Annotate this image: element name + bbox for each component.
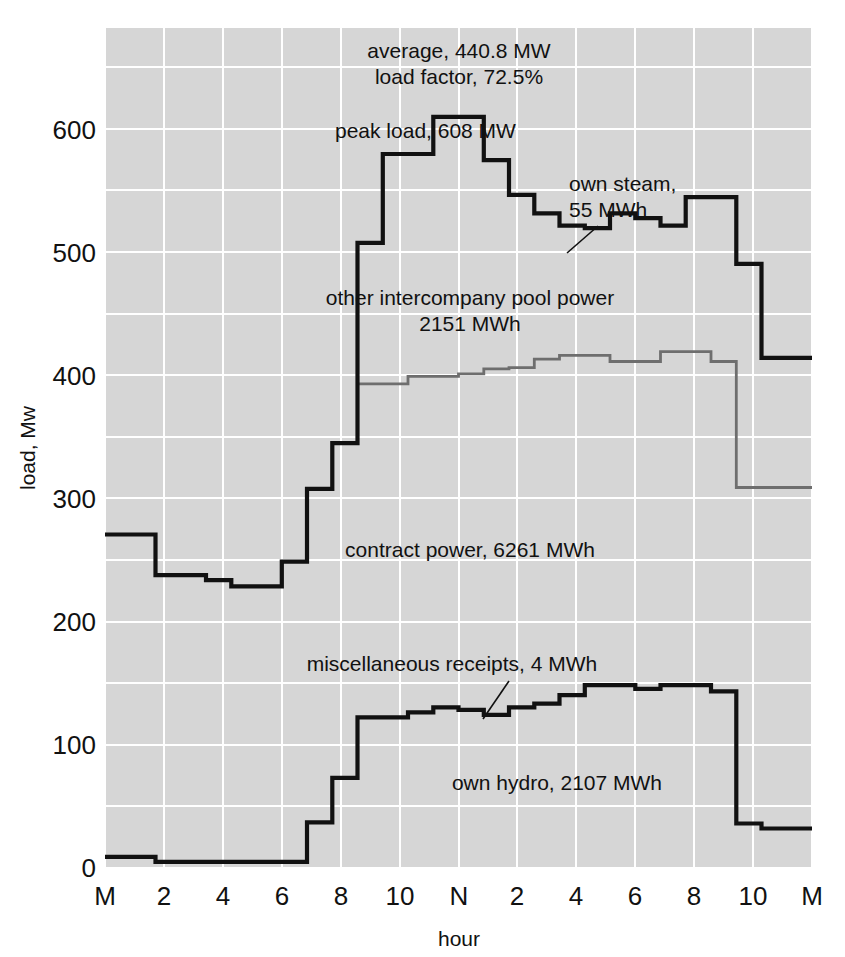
annotation-pool-line2: 2151 MWh xyxy=(419,312,521,335)
y-tick-400: 400 xyxy=(53,361,96,391)
y-axis-tick-labels: 0 100 200 300 400 500 600 xyxy=(53,115,96,883)
annotation-pool-line1: other intercompany pool power xyxy=(326,286,614,309)
x-axis-title: hour xyxy=(438,927,480,950)
x-tick-22: 10 xyxy=(739,881,768,911)
y-tick-100: 100 xyxy=(53,730,96,760)
y-tick-0: 0 xyxy=(82,853,96,883)
y-tick-500: 500 xyxy=(53,238,96,268)
x-tick-2: 2 xyxy=(157,881,171,911)
x-tick-18: 6 xyxy=(628,881,642,911)
y-tick-600: 600 xyxy=(53,115,96,145)
x-tick-10: 10 xyxy=(386,881,415,911)
x-tick-N: N xyxy=(450,881,469,911)
annotation-own-steam-line1: own steam, xyxy=(569,172,676,195)
chart-svg: 0 100 200 300 400 500 600 load, Mw M 2 4… xyxy=(0,0,845,957)
y-tick-300: 300 xyxy=(53,484,96,514)
load-curve-figure: 0 100 200 300 400 500 600 load, Mw M 2 4… xyxy=(0,0,845,957)
x-tick-8: 8 xyxy=(334,881,348,911)
x-axis-tick-labels: M 2 4 6 8 10 N 2 4 6 8 10 M xyxy=(94,881,823,911)
x-tick-16: 4 xyxy=(569,881,583,911)
x-tick-24: M xyxy=(801,881,823,911)
annotation-contract-power: contract power, 6261 MWh xyxy=(345,538,595,561)
x-tick-4: 4 xyxy=(216,881,230,911)
annotation-own-hydro: own hydro, 2107 MWh xyxy=(452,771,662,794)
annotation-peak-load: peak load, 608 MW xyxy=(335,119,516,142)
x-tick-6: 6 xyxy=(275,881,289,911)
x-tick-14: 2 xyxy=(510,881,524,911)
x-tick-20: 8 xyxy=(687,881,701,911)
annotation-own-steam-line2: 55 MWh xyxy=(569,198,647,221)
annotation-misc-label: miscellaneous receipts, 4 MWh xyxy=(307,652,598,675)
x-tick-0: M xyxy=(94,881,116,911)
annotation-load-factor: load factor, 72.5% xyxy=(375,65,543,88)
y-tick-200: 200 xyxy=(53,607,96,637)
annotation-average: average, 440.8 MW xyxy=(367,39,550,62)
y-axis-title: load, Mw xyxy=(16,405,39,490)
